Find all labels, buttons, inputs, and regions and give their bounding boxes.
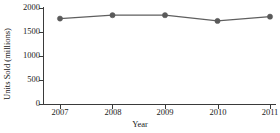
data-point-2007 xyxy=(57,16,62,21)
data-point-2011 xyxy=(267,14,272,19)
data-point-2010 xyxy=(215,18,220,23)
series-markers xyxy=(57,13,272,24)
data-point-2008 xyxy=(110,13,115,18)
data-series-layer xyxy=(0,0,280,133)
data-point-2009 xyxy=(162,13,167,18)
line-chart: Units Sold (millions) 2000 1500 1000 500… xyxy=(0,0,280,133)
